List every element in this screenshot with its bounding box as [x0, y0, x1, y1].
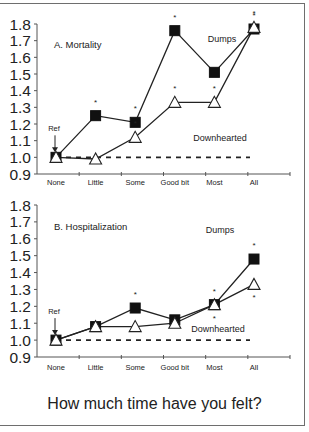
y-tick-label: 1.8	[9, 197, 31, 214]
y-tick-label: 1.2	[9, 298, 31, 315]
significance-asterisk: *	[134, 119, 137, 128]
y-tick-label: 1.4	[9, 264, 31, 281]
y-tick-label: 1.3	[9, 281, 31, 298]
ref-arrow-head-icon	[52, 147, 58, 152]
x-tick-label: All	[250, 363, 259, 372]
figure-charts: 0.91.01.11.21.31.41.51.61.71.8NoneLittle…	[0, 0, 309, 432]
significance-asterisk: *	[173, 13, 176, 22]
x-tick-label: Good bit	[161, 178, 190, 187]
y-tick-label: 1.3	[9, 99, 31, 116]
y-tick-label: 1.6	[9, 49, 31, 66]
x-tick-label: Little	[88, 363, 104, 372]
significance-asterisk: *	[252, 9, 255, 18]
significance-asterisk: *	[134, 290, 137, 299]
square-marker-icon	[170, 26, 180, 36]
y-tick-label: 1.7	[9, 32, 31, 49]
significance-asterisk: *	[173, 84, 176, 93]
x-tick-label: Some	[125, 363, 145, 372]
significance-asterisk: *	[213, 84, 216, 93]
y-tick-label: 1.1	[9, 132, 31, 149]
significance-asterisk: *	[213, 314, 216, 323]
y-tick-label: 0.9	[9, 166, 31, 183]
square-marker-icon	[130, 303, 140, 313]
y-tick-label: 1.5	[9, 66, 31, 83]
ref-arrow-head-icon	[52, 330, 58, 335]
panel-title: B. Hospitalization	[54, 221, 127, 232]
y-tick-label: 0.9	[9, 349, 31, 366]
x-axis-question: How much time have you felt?	[0, 395, 309, 413]
significance-asterisk: *	[94, 98, 97, 107]
x-tick-label: Good bit	[161, 363, 190, 372]
y-tick-label: 1.4	[9, 82, 31, 99]
y-tick-label: 1.5	[9, 247, 31, 264]
x-tick-label: Most	[206, 178, 223, 187]
y-tick-label: 1.0	[9, 332, 31, 349]
x-tick-label: Some	[125, 178, 145, 187]
x-tick-label: All	[250, 178, 259, 187]
y-tick-label: 1.2	[9, 116, 31, 133]
x-tick-label: None	[47, 178, 65, 187]
dumps-label: Dumps	[206, 225, 235, 235]
x-tick-label: None	[47, 363, 65, 372]
square-marker-icon	[249, 254, 259, 264]
ref-label: Ref	[48, 307, 61, 316]
y-tick-label: 1.1	[9, 315, 31, 332]
y-tick-label: 1.6	[9, 230, 31, 247]
significance-asterisk: *	[213, 287, 216, 296]
chart-panel-b: 0.91.01.11.21.31.41.51.61.71.8NoneLittle…	[9, 197, 290, 373]
significance-asterisk: *	[252, 241, 255, 250]
panel-title: A. Mortality	[54, 39, 102, 50]
downhearted-label: Downhearted	[191, 324, 245, 334]
y-tick-label: 1.0	[9, 149, 31, 166]
chart-panel-a: 0.91.01.11.21.31.41.51.61.71.8NoneLittle…	[9, 9, 290, 187]
x-tick-label: Most	[206, 363, 223, 372]
y-tick-label: 1.7	[9, 213, 31, 230]
significance-asterisk: *	[134, 104, 137, 113]
triangle-marker-icon	[248, 278, 260, 289]
square-marker-icon	[91, 111, 101, 121]
square-marker-icon	[209, 67, 219, 77]
ref-label: Ref	[48, 124, 61, 133]
dumps-label: Dumps	[208, 34, 237, 44]
downhearted-label: Downhearted	[193, 133, 247, 143]
significance-asterisk: *	[252, 293, 255, 302]
y-tick-label: 1.8	[9, 16, 31, 33]
x-tick-label: Little	[88, 178, 104, 187]
